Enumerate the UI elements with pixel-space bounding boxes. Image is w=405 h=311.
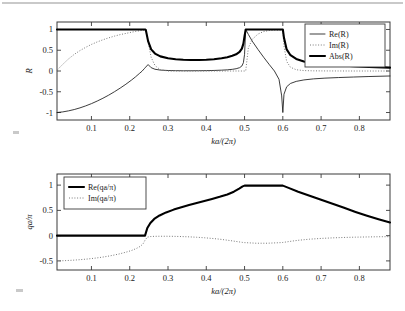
x-tick-label: 0.2 — [124, 123, 135, 133]
legend: Re(R)Im(R)Abs(R) — [305, 24, 385, 67]
x-tick-label: 0.7 — [316, 273, 327, 283]
x-tick-label: 0.7 — [316, 123, 327, 133]
x-tick-label: 0.4 — [201, 123, 212, 133]
x-tick-label: 0.1 — [86, 273, 97, 283]
legend-label: Re(R) — [329, 30, 349, 39]
scan-speck — [13, 131, 19, 134]
y-tick-label: 1 — [49, 180, 53, 190]
x-axis-label: ka/(2π) — [211, 136, 236, 146]
legend-label: Im(R) — [329, 41, 349, 50]
y-tick-label: 1 — [49, 24, 53, 34]
x-tick-label: 0.3 — [163, 123, 174, 133]
x-tick-label: 0.5 — [239, 123, 250, 133]
y-tick-label: -1 — [46, 108, 53, 118]
x-tick-label: 0.4 — [201, 273, 212, 283]
y-tick-label: -0.5 — [40, 87, 53, 97]
x-tick-label: 0.8 — [354, 273, 365, 283]
legend-label: Re(qa/π) — [88, 183, 116, 192]
x-tick-label: 0.3 — [163, 273, 174, 283]
legend: Re(qa/π)Im(qa/π) — [64, 177, 146, 209]
x-tick-label: 0.1 — [86, 123, 97, 133]
y-tick-label: 0 — [49, 231, 53, 241]
y-axis-label: qa/π — [24, 214, 34, 230]
plot-svg: 0.10.20.30.40.50.60.70.8-1-0.500.51ka/(2… — [0, 0, 405, 311]
x-axis-label: ka/(2π) — [211, 286, 236, 296]
legend-box — [64, 177, 146, 209]
legend-label: Im(qa/π) — [88, 194, 116, 203]
scan-edge — [2, 2, 403, 4]
scan-speck — [16, 289, 23, 292]
x-tick-label: 0.8 — [354, 123, 365, 133]
y-tick-label: 0.5 — [42, 45, 53, 55]
figure-canvas: 0.10.20.30.40.50.60.70.8-1-0.500.51ka/(2… — [0, 0, 405, 311]
x-tick-label: 0.5 — [239, 273, 250, 283]
legend-label: Abs(R) — [329, 52, 353, 61]
y-tick-label: 0 — [49, 66, 53, 76]
x-tick-label: 0.6 — [278, 123, 289, 133]
y-axis-label: R — [24, 68, 34, 75]
x-tick-label: 0.2 — [124, 273, 135, 283]
y-tick-label: -0.5 — [40, 256, 53, 266]
y-tick-label: 0.5 — [42, 205, 53, 215]
x-tick-label: 0.6 — [278, 273, 289, 283]
